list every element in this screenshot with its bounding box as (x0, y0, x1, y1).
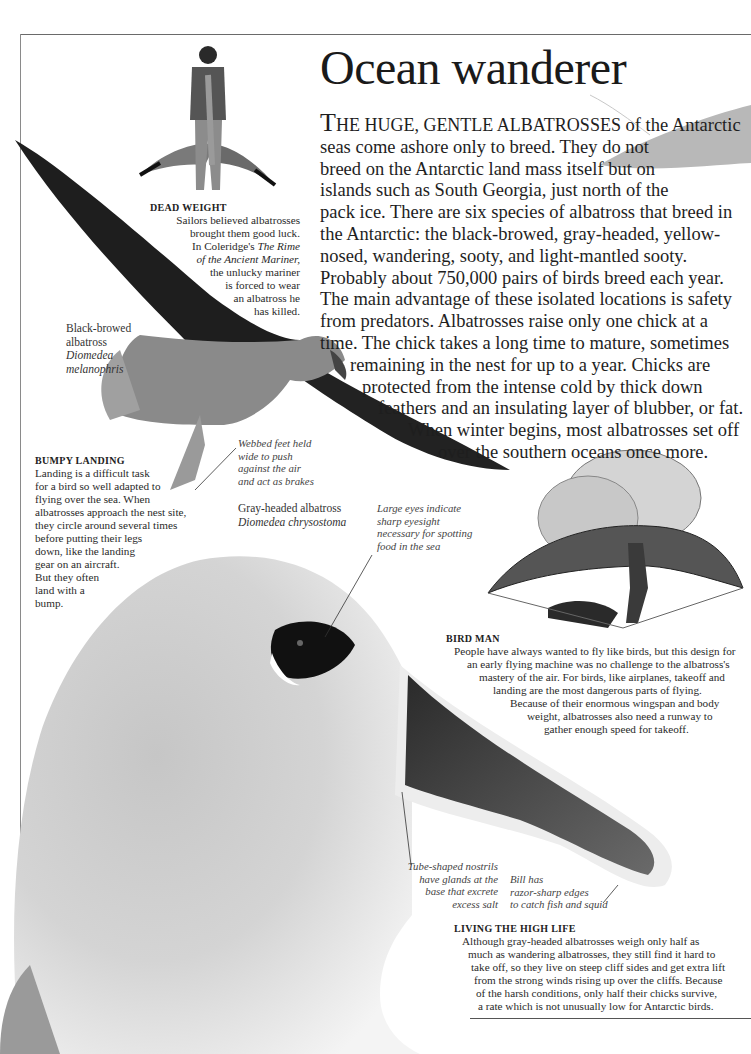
intro-line: feathers and an insulating layer of blub… (320, 398, 720, 420)
note-webbed-feet: Webbed feet held wide to push against th… (238, 437, 314, 487)
caption-line: landing are the most dangerous parts of … (446, 684, 746, 697)
intro-line: over the southern oceans once more. (320, 442, 720, 464)
caption-heading: LIVING THE HIGH LIFE (454, 922, 749, 935)
caption-line: albatrosses approach the nest site, (35, 506, 186, 519)
eye-leader (325, 555, 372, 637)
note-bill: Bill has razor-sharp edges to catch fish… (510, 873, 608, 911)
note-line: food in the sea (377, 540, 472, 553)
caption-line: People have always wanted to fly like bi… (446, 645, 746, 658)
intro-line: When winter begins, most albatrosses set… (320, 420, 720, 442)
caption-heading: BUMPY LANDING (35, 454, 186, 467)
caption-line: Because of their enormous wingspan and b… (446, 697, 746, 710)
caption-line: In Coleridge's The Rime (150, 240, 300, 253)
latin-name: Diomedea chrysostoma (238, 516, 346, 530)
caption-line: bump. (35, 597, 186, 610)
intro-line: breed on the Antarctic land mass itself … (320, 159, 720, 181)
caption-bird-man: BIRD MAN People have always wanted to fl… (446, 632, 746, 736)
intro-text: of the Antarctic (621, 115, 741, 135)
nostril-leader (402, 792, 411, 865)
latin-name: melanophris (66, 363, 131, 377)
page-title: Ocean wanderer (320, 40, 626, 96)
intro-line: time. The chick takes a long time to mat… (320, 333, 720, 355)
note-line: have glands at the (398, 873, 498, 886)
caption-line: gear on an aircraft. (35, 558, 186, 571)
caption-line: the unlucky mariner (150, 266, 300, 279)
note-line: excess salt (398, 898, 498, 911)
caption-line: land with a (35, 584, 186, 597)
caption-line: down, like the landing (35, 545, 186, 558)
intro-paragraph: THE HUGE, GENTLE ALBATROSSES of the Anta… (320, 112, 720, 464)
caption-line: an early flying machine was no challenge… (446, 658, 746, 671)
note-nostrils: Tube-shaped nostrils have glands at the … (398, 860, 498, 910)
drop-cap: T (320, 108, 336, 137)
caption-line: an albatross he (150, 292, 300, 305)
caption-line: before putting their legs (35, 532, 186, 545)
note-line: Webbed feet held (238, 437, 314, 450)
caption-line: gather enough speed for takeoff. (446, 723, 746, 736)
caption-line: But they often (35, 571, 186, 584)
caption-line: brought them good luck. (150, 227, 300, 240)
intro-line: THE HUGE, GENTLE ALBATROSSES of the Anta… (320, 112, 720, 137)
common-name: Gray-headed albatross (238, 502, 346, 516)
intro-smallcaps: HE HUGE, GENTLE ALBATROSSES (336, 115, 621, 135)
latin-name: Diomedea (66, 349, 131, 363)
caption-line: flying over the sea. When (35, 493, 186, 506)
note-line: and act as brakes (238, 475, 314, 488)
caption-line: weight, albatrosses also need a runway t… (446, 710, 746, 723)
caption-line: much as wandering albatrosses, they stil… (454, 948, 749, 961)
caption-line: is forced to wear (150, 279, 300, 292)
note-line: against the air (238, 462, 314, 475)
webbed-feet-leader (195, 448, 236, 490)
caption-line: Although gray-headed albatrosses weigh o… (454, 935, 749, 948)
intro-line: seas come ashore only to breed. They do … (320, 137, 720, 159)
caption-line: of the harsh conditions, only half their… (454, 987, 749, 1000)
poem-title: The Rime (257, 240, 300, 252)
common-name: albatross (66, 336, 131, 350)
caption-line: Landing is a difficult task (35, 467, 186, 480)
caption-line: take off, so they live on steep cliff si… (454, 961, 749, 974)
caption-heading: DEAD WEIGHT (150, 201, 300, 214)
caption-heading: BIRD MAN (446, 632, 746, 645)
caption-dead-weight: DEAD WEIGHT Sailors believed albatrosses… (150, 201, 300, 318)
intro-line: pack ice. There are six species of albat… (320, 202, 720, 224)
note-line: Tube-shaped nostrils (398, 860, 498, 873)
caption-bumpy-landing: BUMPY LANDING Landing is a difficult tas… (35, 454, 186, 610)
note-line: necessary for spotting (377, 527, 472, 540)
note-line: Bill has (510, 873, 608, 886)
common-name: Black-browed (66, 322, 131, 336)
intro-line: The main advantage of these isolated loc… (320, 289, 720, 311)
intro-line: the Antarctic: the black-browed, gray-he… (320, 224, 720, 246)
note-line: to catch fish and squid (510, 898, 608, 911)
caption-line: has killed. (150, 305, 300, 318)
intro-line: Probably about 750,000 pairs of birds br… (320, 268, 720, 290)
note-line: Large eyes indicate (377, 502, 472, 515)
note-line: sharp eyesight (377, 515, 472, 528)
caption-line: from the strong winds rising up over the… (454, 974, 749, 987)
intro-line: remaining in the nest for up to a year. … (320, 355, 720, 377)
caption-line: mastery of the air. For birds, like airp… (446, 671, 746, 684)
caption-line: a rate which is not unusually low for An… (454, 1000, 749, 1013)
intro-line: islands such as South Georgia, just nort… (320, 180, 720, 202)
caption-line: they circle around several times (35, 519, 186, 532)
caption-text: In Coleridge's (192, 240, 257, 252)
label-black-browed: Black-browed albatross Diomedea melanoph… (66, 322, 131, 376)
poem-title-cont: of the Ancient Mariner, (150, 253, 300, 266)
caption-high-life: LIVING THE HIGH LIFE Although gray-heade… (454, 922, 749, 1013)
note-line: wide to push (238, 450, 314, 463)
intro-line: nosed, wandering, sooty, and light-mantl… (320, 246, 720, 268)
note-line: base that excrete (398, 885, 498, 898)
caption-line: Sailors believed albatrosses (150, 214, 300, 227)
intro-line: protected from the intense cold by thick… (320, 377, 720, 399)
caption-line: for a bird so well adapted to (35, 480, 186, 493)
note-line: razor-sharp edges (510, 886, 608, 899)
label-gray-headed: Gray-headed albatross Diomedea chrysosto… (238, 502, 346, 529)
intro-line: from predators. Albatrosses raise only o… (320, 311, 720, 333)
note-large-eyes: Large eyes indicate sharp eyesight neces… (377, 502, 472, 552)
